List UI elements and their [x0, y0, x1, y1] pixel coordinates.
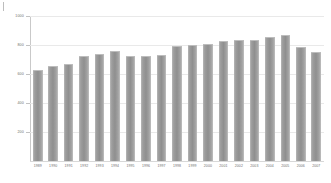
- bar-group[interactable]: 2007: [311, 16, 321, 161]
- bar-group[interactable]: 1994: [110, 16, 120, 161]
- bar-group[interactable]: 1998: [172, 16, 182, 161]
- x-axis-label: 2006: [297, 164, 305, 168]
- x-axis-label: 1989: [34, 164, 42, 168]
- bar-group[interactable]: 2001: [219, 16, 229, 161]
- x-axis-label: 1994: [111, 164, 119, 168]
- bar-group[interactable]: 1991: [64, 16, 74, 161]
- bar-chart: 1000800600400200 19891990199119921993199…: [0, 0, 331, 183]
- bar[interactable]: [110, 51, 120, 161]
- bar[interactable]: [311, 52, 321, 161]
- x-axis-label: 1998: [173, 164, 181, 168]
- bar[interactable]: [141, 56, 151, 161]
- x-axis-label: 1991: [65, 164, 73, 168]
- x-axis-label: 2004: [266, 164, 274, 168]
- bar-group[interactable]: 2003: [250, 16, 260, 161]
- y-axis-label: 400: [17, 101, 24, 105]
- x-axis-label: 1996: [142, 164, 150, 168]
- bar-group[interactable]: 1989: [33, 16, 43, 161]
- bar[interactable]: [250, 40, 260, 161]
- bar-group[interactable]: 2000: [203, 16, 213, 161]
- bar[interactable]: [95, 54, 105, 161]
- baseline: [30, 161, 324, 162]
- y-axis-label: 600: [17, 72, 24, 76]
- x-axis-label: 1999: [188, 164, 196, 168]
- bar-group[interactable]: 2004: [265, 16, 275, 161]
- x-axis-label: 2007: [312, 164, 320, 168]
- y-axis-label: 200: [17, 130, 24, 134]
- bar[interactable]: [79, 56, 89, 161]
- x-axis-label: 1992: [80, 164, 88, 168]
- bar[interactable]: [219, 41, 229, 161]
- bar[interactable]: [157, 55, 167, 161]
- bar-group[interactable]: 1993: [95, 16, 105, 161]
- bar[interactable]: [296, 47, 306, 161]
- x-axis-label: 1993: [96, 164, 104, 168]
- x-axis-label: 2003: [250, 164, 258, 168]
- bar-group[interactable]: 1990: [48, 16, 58, 161]
- x-axis-label: 2001: [219, 164, 227, 168]
- bar[interactable]: [203, 44, 213, 161]
- x-axis-label: 2005: [281, 164, 289, 168]
- bar-group[interactable]: 2005: [281, 16, 291, 161]
- bar[interactable]: [48, 66, 58, 161]
- bar[interactable]: [281, 35, 291, 161]
- bar[interactable]: [126, 56, 136, 161]
- bar-group[interactable]: 1997: [157, 16, 167, 161]
- bar[interactable]: [64, 64, 74, 161]
- bars-group: 1989199019911992199319941995199619971998…: [30, 16, 324, 161]
- plot-area: 1000800600400200 19891990199119921993199…: [30, 16, 324, 161]
- y-axis-label: 1000: [15, 14, 24, 18]
- scan-artifact-mark: [3, 2, 4, 11]
- bar-group[interactable]: 2006: [296, 16, 306, 161]
- x-axis-label: 2000: [204, 164, 212, 168]
- bar-group[interactable]: 1992: [79, 16, 89, 161]
- x-axis-label: 1997: [157, 164, 165, 168]
- x-axis-label: 2002: [235, 164, 243, 168]
- bar[interactable]: [33, 70, 43, 161]
- bar-group[interactable]: 1999: [188, 16, 198, 161]
- bar[interactable]: [265, 37, 275, 161]
- bar[interactable]: [234, 40, 244, 161]
- y-axis-label: 800: [17, 43, 24, 47]
- bar-group[interactable]: 1995: [126, 16, 136, 161]
- bar-group[interactable]: 1996: [141, 16, 151, 161]
- bar[interactable]: [172, 46, 182, 161]
- x-axis-label: 1995: [126, 164, 134, 168]
- bar[interactable]: [188, 45, 198, 161]
- bar-group[interactable]: 2002: [234, 16, 244, 161]
- x-axis-label: 1990: [49, 164, 57, 168]
